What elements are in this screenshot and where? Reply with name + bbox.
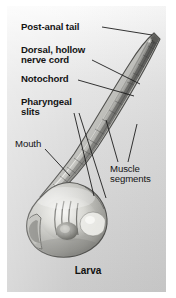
posterior-organ-highlight: [85, 216, 95, 224]
head-lower-shadow: [31, 238, 103, 262]
label-pharyngeal-slits: Pharyngeal slits: [21, 97, 72, 118]
figure-caption-larva: Larva: [0, 265, 176, 276]
head-upper-highlight: [35, 187, 95, 209]
label-dorsal-hollow-nerve-cord: Dorsal, hollow nerve cord: [21, 45, 85, 66]
label-post-anal-tail: Post-anal tail: [21, 22, 79, 32]
larva-anatomy-figure: Post-anal tail Dorsal, hollow nerve cord…: [0, 0, 176, 298]
label-muscle-segments: Muscle segments: [110, 164, 151, 185]
endostyle-highlight: [60, 225, 70, 233]
label-notochord: Notochord: [21, 74, 69, 84]
label-mouth: Mouth: [15, 139, 41, 149]
head-group: [25, 183, 107, 262]
